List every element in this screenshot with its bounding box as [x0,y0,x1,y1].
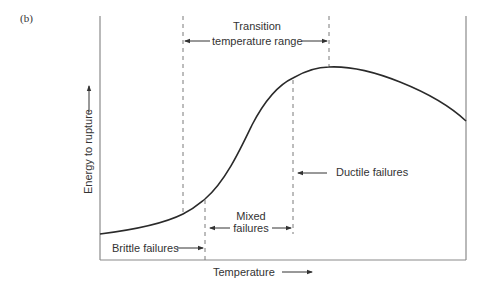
y-axis-label: Energy to rupture [82,109,94,194]
transition-label-line1: Transition [215,20,299,33]
ductile-failures-label: Ductile failures [336,166,408,179]
panel-label: (b) [20,12,33,25]
transition-label-line2: temperature range [212,35,303,48]
brittle-failures-label: Brittle failures [112,242,179,255]
x-axis-label: Temperature [213,266,275,279]
arrows [89,41,327,272]
energy-curve [100,67,466,234]
mixed-label-line2: failures [226,222,276,235]
